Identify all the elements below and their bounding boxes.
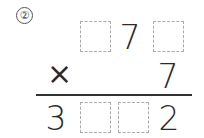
problem-number-label: ② (16, 7, 33, 24)
product-hundreds-blank-box[interactable] (80, 102, 111, 133)
multiplicand-hundreds-blank-box[interactable] (80, 21, 111, 52)
multiplicand-tens-digit: 7 (119, 21, 141, 54)
multiply-sign: × (47, 59, 72, 89)
multiplicand-ones-blank-box[interactable] (153, 21, 184, 52)
product-tens-blank-box[interactable] (118, 102, 149, 133)
product-ones-digit: 2 (158, 102, 180, 135)
answer-line (36, 94, 192, 96)
product-thousands-digit: 3 (45, 102, 67, 135)
multiplier-digit: 7 (157, 60, 179, 93)
